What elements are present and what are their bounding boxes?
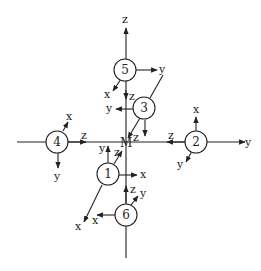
node-3-label: 3 xyxy=(140,101,148,115)
node-4-label: 4 xyxy=(53,135,61,149)
n2-z-label: z xyxy=(168,129,174,142)
n6-y-label: y xyxy=(139,187,147,200)
n2-x-label: x xyxy=(193,103,200,116)
main-z-label: z xyxy=(122,13,128,26)
node-2: 2 xyxy=(185,131,207,153)
n5-x-label: x xyxy=(104,88,111,101)
n1-y-label: y xyxy=(98,142,106,155)
n4-y-label: y xyxy=(53,170,61,183)
n2-y-label: y xyxy=(176,158,184,171)
n3-z-label: z xyxy=(133,131,139,144)
n6-x-label: x xyxy=(92,214,99,227)
node-4: 4 xyxy=(46,131,68,153)
n4-z-label: z xyxy=(81,129,87,142)
node-6-label: 6 xyxy=(122,208,130,222)
main-y-label: y xyxy=(244,136,252,149)
node-5-label: 5 xyxy=(121,63,129,77)
node-6: 6 xyxy=(115,204,137,226)
coordinate-frame-diagram: 5 3 4 2 1 6 M z y y x z y z x y z x y z … xyxy=(0,0,261,271)
n6-y-arrow xyxy=(131,196,138,205)
diagram-svg: 5 3 4 2 1 6 M z y y x z y z x y z x y z … xyxy=(0,0,261,271)
n2-y-arrow xyxy=(186,151,192,162)
n3-y-label: y xyxy=(105,102,113,115)
node-3: 3 xyxy=(133,97,155,119)
n5-z-label: z xyxy=(129,90,135,103)
node-1-label: 1 xyxy=(104,167,112,181)
node-1: 1 xyxy=(97,163,119,185)
n6-z-label: z xyxy=(130,183,136,196)
diagonal-line-upper xyxy=(150,75,163,98)
n1-diag-x-label: x xyxy=(75,220,82,233)
n1-x-label: x xyxy=(140,168,147,181)
node-2-label: 2 xyxy=(192,135,200,149)
n5-x-arrow xyxy=(113,79,121,91)
n4-x-arrow xyxy=(63,122,68,131)
node-5: 5 xyxy=(114,59,136,81)
n4-x-label: x xyxy=(66,110,73,123)
n5-y-label: y xyxy=(158,63,166,76)
n1-z-label: z xyxy=(114,146,120,159)
center-label-m: M xyxy=(120,136,132,150)
